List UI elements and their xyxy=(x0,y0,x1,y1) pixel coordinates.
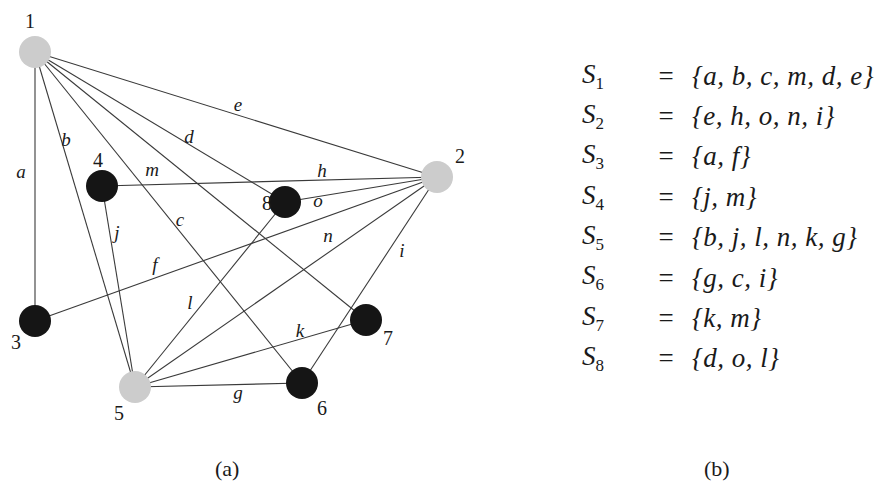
set-value: {b, j, l, n, k, g} xyxy=(692,222,858,253)
equals-sign: = xyxy=(640,182,692,213)
caption-a: (a) xyxy=(215,456,239,482)
edge-label-e: e xyxy=(234,94,242,115)
set-name: S8 xyxy=(582,341,640,376)
set-name: S4 xyxy=(582,180,640,215)
edge-b xyxy=(35,52,135,387)
node-3 xyxy=(19,305,51,337)
edge-labels-group: abcmdehofnijlkg xyxy=(16,94,404,403)
edge-m xyxy=(35,52,366,320)
edge-label-j: j xyxy=(111,222,119,243)
set-row: S3={a, f} xyxy=(582,137,874,177)
edge-l xyxy=(135,202,285,387)
set-row: S4={j, m} xyxy=(582,177,874,217)
set-name: S2 xyxy=(582,99,640,134)
set-value: {a, b, c, m, d, e} xyxy=(692,61,874,92)
node-label-4: 4 xyxy=(93,149,103,171)
edge-label-h: h xyxy=(317,160,327,181)
edge-k xyxy=(135,320,366,387)
edge-label-n: n xyxy=(323,225,333,246)
edge-label-i: i xyxy=(399,240,404,261)
equals-sign: = xyxy=(640,263,692,294)
set-name: S6 xyxy=(582,260,640,295)
edge-label-a: a xyxy=(16,161,26,182)
set-name: S7 xyxy=(582,301,640,336)
set-value: {g, c, i} xyxy=(692,263,778,294)
node-label-7: 7 xyxy=(383,327,393,349)
node-2 xyxy=(421,161,453,193)
set-value: {j, m} xyxy=(692,182,757,213)
node-4 xyxy=(86,170,118,202)
edge-label-g: g xyxy=(233,382,243,403)
edge-label-d: d xyxy=(184,126,194,147)
set-value: {k, m} xyxy=(692,303,762,334)
set-row: S7={k, m} xyxy=(582,298,874,338)
node-label-8: 8 xyxy=(262,192,272,214)
equals-sign: = xyxy=(640,141,692,172)
node-8 xyxy=(269,186,301,218)
equals-sign: = xyxy=(640,61,692,92)
set-definitions: S1={a, b, c, m, d, e} S2={e, h, o, n, i}… xyxy=(582,56,874,379)
set-name: S5 xyxy=(582,220,640,255)
node-6 xyxy=(286,367,318,399)
set-row: S2={e, h, o, n, i} xyxy=(582,96,874,136)
edge-label-o: o xyxy=(313,190,323,211)
node-label-5: 5 xyxy=(114,402,124,424)
set-row: S6={g, c, i} xyxy=(582,258,874,298)
set-row: S8={d, o, l} xyxy=(582,339,874,379)
edge-label-f: f xyxy=(152,254,160,275)
node-7 xyxy=(350,304,382,336)
equals-sign: = xyxy=(640,303,692,334)
set-row: S1={a, b, c, m, d, e} xyxy=(582,56,874,96)
node-label-1: 1 xyxy=(25,10,35,32)
node-label-2: 2 xyxy=(455,145,465,167)
set-name: S3 xyxy=(582,139,640,174)
set-value: {a, f} xyxy=(692,141,751,172)
edge-label-l: l xyxy=(187,292,192,313)
node-label-3: 3 xyxy=(11,331,21,353)
caption-b: (b) xyxy=(704,456,730,482)
equals-sign: = xyxy=(640,222,692,253)
set-name: S1 xyxy=(582,59,640,94)
edge-c xyxy=(35,52,302,383)
edge-label-b: b xyxy=(61,129,71,150)
set-value: {d, o, l} xyxy=(692,343,780,374)
edge-label-c: c xyxy=(176,209,185,230)
edge-label-m: m xyxy=(145,159,159,180)
node-5 xyxy=(119,371,151,403)
equals-sign: = xyxy=(640,343,692,374)
node-1 xyxy=(19,36,51,68)
equals-sign: = xyxy=(640,101,692,132)
edge-label-k: k xyxy=(296,320,305,341)
set-row: S5={b, j, l, n, k, g} xyxy=(582,218,874,258)
graph-diagram: abcmdehofnijlkg 12345678 xyxy=(0,0,480,440)
edge-g xyxy=(135,383,302,387)
node-label-6: 6 xyxy=(317,397,327,419)
set-value: {e, h, o, n, i} xyxy=(692,101,835,132)
